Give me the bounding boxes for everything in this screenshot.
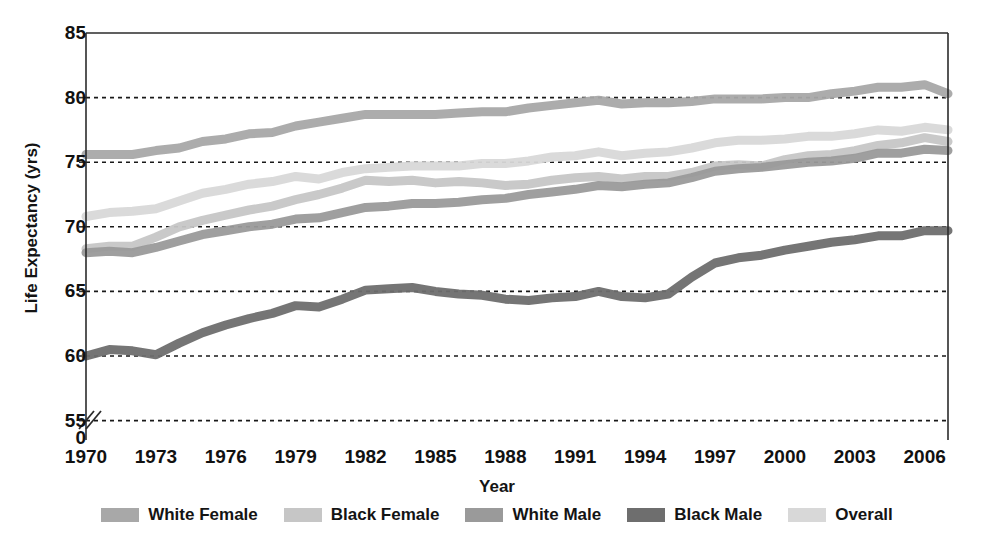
x-tick-label: 1985 — [414, 446, 456, 468]
legend-swatch — [788, 508, 826, 522]
y-axis-tick-labels: 858075706560550 — [24, 0, 86, 460]
x-tick-label: 1976 — [205, 446, 247, 468]
legend-item-black-female[interactable]: Black Female — [284, 505, 440, 525]
x-tick-label: 1991 — [554, 446, 596, 468]
legend-swatch — [627, 508, 665, 522]
y-tick-label: 75 — [26, 152, 86, 171]
legend-item-white-male[interactable]: White Male — [465, 505, 601, 525]
x-tick-label: 2003 — [834, 446, 876, 468]
x-tick-label: 2006 — [904, 446, 946, 468]
x-tick-label: 1970 — [65, 446, 107, 468]
y-tick-label: 85 — [26, 23, 86, 42]
legend-swatch — [465, 508, 503, 522]
x-tick-label: 1973 — [135, 446, 177, 468]
series-lines — [86, 85, 948, 356]
x-tick-label: 1982 — [344, 446, 386, 468]
x-tick-label: 1979 — [275, 446, 317, 468]
y-tick-label-zero: 0 — [26, 428, 86, 447]
legend-label: Black Female — [331, 505, 440, 525]
legend-swatch — [101, 508, 139, 522]
legend-item-white-female[interactable]: White Female — [101, 505, 258, 525]
plot-area — [0, 0, 994, 460]
y-tick-label: 80 — [26, 88, 86, 107]
legend-label: White Male — [512, 505, 601, 525]
y-tick-label: 65 — [26, 281, 86, 300]
chart-legend: White FemaleBlack FemaleWhite MaleBlack … — [0, 505, 994, 525]
series-line-white-female — [86, 85, 948, 155]
legend-label: Overall — [835, 505, 893, 525]
x-axis-title: Year — [0, 477, 994, 497]
gridlines — [79, 98, 948, 421]
y-tick-label: 70 — [26, 217, 86, 236]
x-tick-label: 1997 — [694, 446, 736, 468]
x-tick-label: 1994 — [624, 446, 666, 468]
chart-figure: Life Expectancy (yrs) Year 8580757065605… — [0, 0, 994, 547]
legend-item-black-male[interactable]: Black Male — [627, 505, 762, 525]
series-line-black-male — [86, 231, 948, 356]
y-tick-label: 60 — [26, 346, 86, 365]
legend-label: White Female — [148, 505, 258, 525]
legend-swatch — [284, 508, 322, 522]
x-tick-label: 1988 — [484, 446, 526, 468]
x-tick-label: 2000 — [764, 446, 806, 468]
legend-label: Black Male — [674, 505, 762, 525]
legend-item-overall[interactable]: Overall — [788, 505, 893, 525]
